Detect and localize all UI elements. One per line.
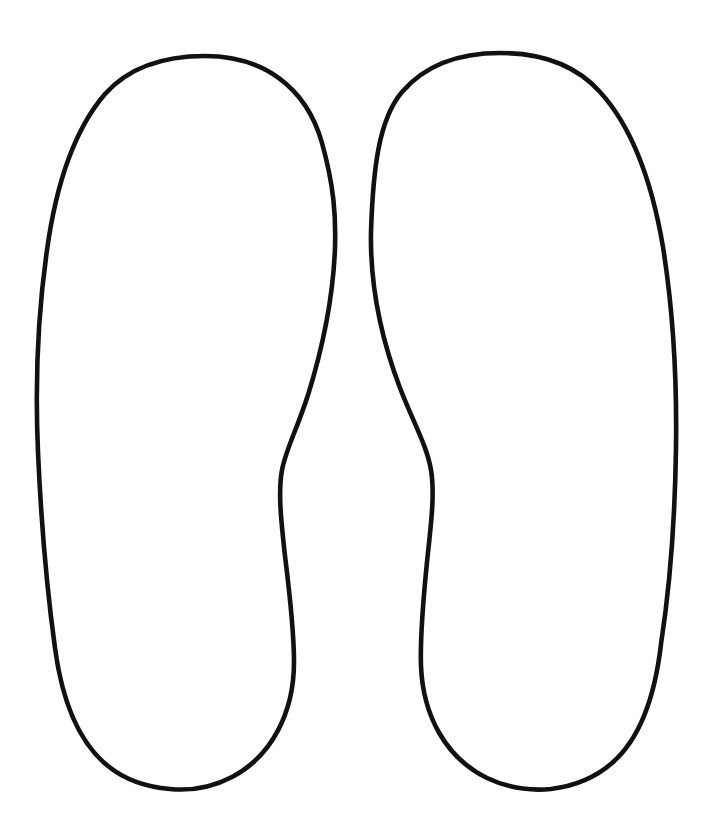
footprint-template-canvas	[0, 0, 713, 829]
left-sole-group	[37, 56, 335, 790]
left-sole-outline	[37, 56, 335, 790]
footprint-pair-artwork	[0, 0, 713, 829]
